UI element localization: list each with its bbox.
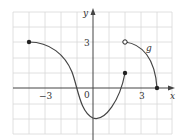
closed-point-end bbox=[155, 86, 159, 90]
y-axis bbox=[91, 8, 96, 140]
open-point-piece2-start bbox=[123, 40, 127, 44]
closed-point-piece1-end bbox=[123, 71, 127, 75]
x-axis bbox=[13, 86, 175, 91]
function-graph: y x 3 −3 0 3 g bbox=[0, 0, 181, 140]
x-tick-neg3: −3 bbox=[39, 91, 53, 101]
y-tick-3: 3 bbox=[84, 38, 90, 48]
function-label: g bbox=[146, 43, 152, 53]
x-tick-3: 3 bbox=[139, 91, 145, 101]
x-axis-label: x bbox=[170, 91, 175, 101]
x-tick-0: 0 bbox=[84, 90, 90, 100]
closed-point-start bbox=[27, 40, 31, 44]
y-axis-label: y bbox=[82, 8, 89, 18]
